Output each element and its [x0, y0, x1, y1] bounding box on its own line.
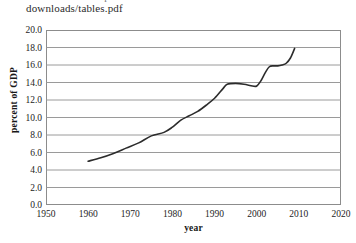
x-tick-label: 2020: [332, 209, 351, 219]
x-tick-label: 1950: [37, 209, 56, 219]
x-tick-label: 1960: [79, 209, 98, 219]
x-tick-label: 1970: [121, 209, 140, 219]
line-chart-svg: [46, 30, 341, 205]
x-tick-label: 1980: [163, 209, 182, 219]
y-tick-label: 2.0: [6, 183, 42, 193]
x-tick-label: 2010: [289, 209, 308, 219]
document-path-label: downloads/tables.pdf: [26, 2, 123, 14]
x-tick-label: 2000: [247, 209, 266, 219]
y-tick-label: 20.0: [6, 25, 42, 35]
y-tick-label: 4.0: [6, 165, 42, 175]
x-axis-tick-labels: 19501960197019801990200020102020: [46, 209, 341, 223]
plot-area: [46, 30, 341, 205]
x-tick-label: 1990: [205, 209, 224, 219]
y-axis-title: percent of GDP: [9, 35, 19, 165]
x-axis-title: year: [46, 223, 341, 233]
chart-page: downloads/tables.pdf downloads/tables.pd…: [0, 0, 356, 243]
